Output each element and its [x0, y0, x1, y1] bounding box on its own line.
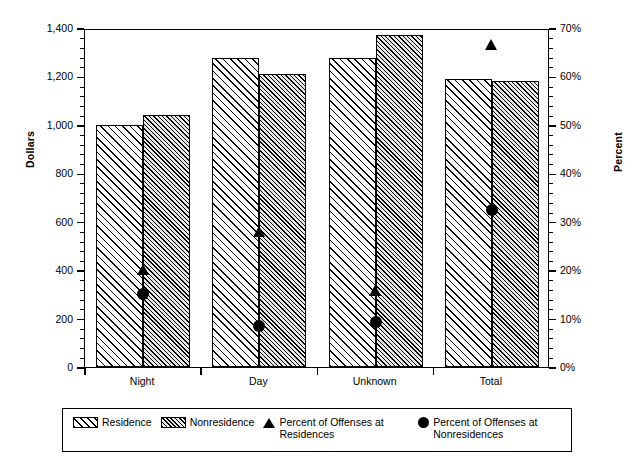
y-tick-right [549, 319, 556, 321]
y-minor-tick-right [549, 58, 553, 59]
marker-circle-night [137, 288, 149, 300]
y-tick-label-right: 60% [560, 70, 608, 82]
y-minor-tick-right [549, 242, 553, 243]
bar-total-residence [445, 79, 492, 367]
y-minor-tick-right [549, 116, 553, 117]
y-minor-tick-right [549, 251, 553, 252]
hatch-swatch-nonresidence-icon [161, 417, 186, 428]
y-minor-tick-right [549, 280, 553, 281]
plot-area [84, 29, 549, 368]
y-minor-tick-right [549, 135, 553, 136]
y-tick-right [549, 77, 556, 79]
marker-triangle-night [137, 264, 149, 275]
triangle-marker-icon [263, 418, 275, 428]
y-tick-left [77, 319, 84, 321]
y-tick-label-left: 1,400 [25, 22, 73, 34]
y-minor-tick-right [549, 203, 553, 204]
y-minor-tick-right [549, 193, 553, 194]
x-tick [433, 368, 435, 375]
legend-label: Residence [102, 416, 152, 428]
marker-triangle-day [253, 226, 265, 237]
marker-triangle-unknown [369, 285, 381, 296]
circle-marker-icon [418, 417, 429, 428]
x-axis-label-total: Total [441, 375, 541, 387]
y-minor-tick-right [549, 290, 553, 291]
y-minor-tick-right [549, 300, 553, 301]
legend-item-1: Residence [73, 416, 152, 428]
x-tick [317, 368, 319, 375]
y-minor-tick-right [549, 213, 553, 214]
legend-item-3: Percent of Offenses at Residences [263, 416, 409, 440]
y-axis-right-title: Percent [612, 132, 624, 172]
y-minor-tick-right [549, 154, 553, 155]
y-tick-right [549, 367, 556, 369]
y-tick-right [549, 222, 556, 224]
y-tick-label-left: 200 [25, 313, 73, 325]
bar-unknown-nonresidence [376, 35, 423, 367]
y-tick-right [549, 125, 556, 127]
y-tick-label-left: 0 [25, 361, 73, 373]
chart-legend: ResidenceNonresidencePercent of Offenses… [62, 408, 572, 452]
y-minor-tick-right [549, 106, 553, 107]
y-tick-label-right: 30% [560, 216, 608, 228]
y-minor-tick-right [549, 87, 553, 88]
y-tick-right [549, 270, 556, 272]
y-minor-tick-right [549, 261, 553, 262]
marker-circle-unknown [370, 316, 382, 328]
bar-night-residence [96, 125, 143, 367]
y-minor-tick-right [549, 145, 553, 146]
bar-total-nonresidence [492, 81, 539, 367]
y-tick-label-right: 40% [560, 167, 608, 179]
marker-triangle-total [485, 39, 497, 50]
y-tick-label-right: 10% [560, 313, 608, 325]
y-minor-tick-right [549, 67, 553, 68]
y-minor-tick-right [549, 348, 553, 349]
x-axis-label-night: Night [92, 375, 192, 387]
x-axis-label-unknown: Unknown [325, 375, 425, 387]
y-minor-tick-right [549, 183, 553, 184]
y-tick-label-left: 800 [25, 167, 73, 179]
y-axis-left-title: Dollars [24, 131, 36, 168]
y-tick-label-right: 50% [560, 119, 608, 131]
y-minor-tick-right [549, 358, 553, 359]
legend-label: Percent of Offenses at Nonresidences [433, 416, 563, 440]
y-minor-tick-right [549, 232, 553, 233]
x-tick [84, 368, 86, 375]
y-tick-label-right: 70% [560, 22, 608, 34]
y-tick-label-left: 1,000 [25, 119, 73, 131]
x-axis-label-day: Day [208, 375, 308, 387]
y-minor-tick-right [549, 329, 553, 330]
y-tick-label-left: 400 [25, 264, 73, 276]
y-minor-tick-right [549, 309, 553, 310]
y-tick-label-left: 600 [25, 216, 73, 228]
y-minor-tick-right [549, 48, 553, 49]
hatch-swatch-residence-icon [73, 417, 98, 428]
y-tick-left [77, 174, 84, 176]
y-tick-left [77, 125, 84, 127]
y-minor-tick-right [549, 338, 553, 339]
y-tick-left [77, 28, 84, 30]
y-tick-right [549, 28, 556, 30]
legend-item-4: Percent of Offenses at Nonresidences [418, 416, 563, 440]
bar-day-nonresidence [259, 74, 306, 367]
y-minor-tick-right [549, 96, 553, 97]
bar-unknown-residence [329, 58, 376, 367]
y-tick-label-right: 20% [560, 264, 608, 276]
y-tick-left [77, 77, 84, 79]
legend-item-2: Nonresidence [161, 416, 255, 428]
y-tick-left [77, 367, 84, 369]
bar-day-residence [212, 58, 259, 367]
y-tick-left [77, 222, 84, 224]
legend-label: Nonresidence [190, 416, 255, 428]
marker-circle-total [486, 204, 498, 216]
y-minor-tick-right [549, 164, 553, 165]
y-tick-label-right: 0% [560, 361, 608, 373]
x-tick [200, 368, 202, 375]
bar-night-nonresidence [143, 115, 190, 367]
legend-label: Percent of Offenses at Residences [279, 416, 409, 440]
y-minor-tick-right [549, 38, 553, 39]
y-tick-label-left: 1,200 [25, 70, 73, 82]
chart-figure: Dollars Percent 02004006008001,0001,2001… [0, 0, 634, 459]
y-tick-right [549, 174, 556, 176]
y-tick-left [77, 270, 84, 272]
